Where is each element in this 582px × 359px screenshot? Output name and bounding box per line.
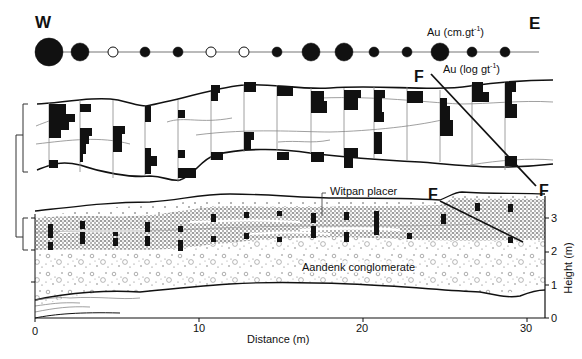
x-tick-20: 20 [356,322,368,334]
au-accumulation-label: Au (cm.gt-1) [427,25,484,38]
au-sample-circle-icon [272,47,282,57]
y-tick-1: 1 [551,279,557,291]
witpan-placer-section-diagram [0,0,582,359]
witpan-placer-label: Witpan placer [330,185,397,197]
au-sample-circle-icon [369,47,379,57]
au-sample-circle-icon [173,47,183,57]
aandenk-conglomerate-label: Aandenk conglomerate [302,261,415,273]
y-tick-0: 0 [551,312,557,324]
au-log-label: Au (log gt-1) [443,62,500,75]
west-label: W [35,13,51,33]
au-sample-circle-icon [431,43,449,61]
au-sample-circle-icon [239,47,249,57]
y-tick-3: 3 [551,212,557,224]
au-sample-circle-icon [500,47,510,57]
x-tick-10: 10 [193,322,205,334]
correlation-brackets [16,104,28,250]
fault-label-upper-end: F [539,182,549,200]
fault-label-lower-start: F [428,186,438,204]
au-log-close: ) [496,63,500,75]
au-sample-circle-icon [206,47,216,57]
au-log-text: Au (log gt [443,63,490,75]
au-log-section [36,74,553,186]
au-sample-circle-icon [335,43,353,61]
x-tick-0: 0 [32,325,38,337]
y-axis-title: Height (m) [562,242,574,293]
au-sample-circle-icon [140,47,150,57]
x-tick-30: 30 [520,322,532,334]
au-accumulation-close: ) [480,26,484,38]
east-label: E [529,14,540,34]
au-sample-circle-icon [467,47,477,57]
x-axis-title: Distance (m) [247,333,309,345]
au-sample-circle-icon [302,43,320,61]
au-sample-circle-icon [402,47,412,57]
au-sample-circle-icon [35,38,63,66]
au-accumulation-text: Au (cm.gt [427,26,474,38]
fault-label-upper-start: F [414,68,424,86]
geological-cross-section [31,192,549,322]
au-sample-circle-icon [71,43,89,61]
au-sample-circle-icon [108,47,118,57]
y-tick-2: 2 [551,245,557,257]
